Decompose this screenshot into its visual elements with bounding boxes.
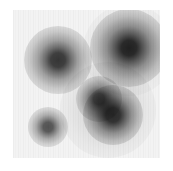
density-plot-area bbox=[13, 10, 160, 158]
halo-upper-right bbox=[83, 10, 160, 96]
image-canvas bbox=[0, 0, 173, 171]
peak-center-small bbox=[76, 76, 122, 122]
peak-upper-right bbox=[90, 10, 160, 87]
stripe-texture-overlay bbox=[13, 10, 160, 158]
peak-lower-right bbox=[83, 85, 143, 145]
peak-lower-left bbox=[28, 107, 68, 147]
peak-upper-left bbox=[24, 26, 92, 94]
halo-lower-cluster bbox=[60, 62, 156, 158]
